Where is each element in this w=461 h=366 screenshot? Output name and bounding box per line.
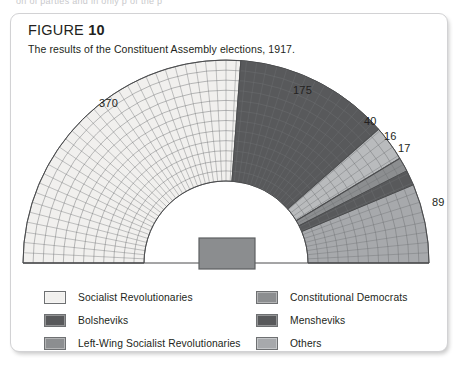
legend-swatch [256,314,278,327]
legend-label: Bolsheviks [78,315,128,326]
legend-swatch [44,337,66,350]
legend-swatch [256,291,278,304]
legend-label: Others [290,338,322,349]
segment-value-label: 370 [99,97,118,109]
segment-value-label: 17 [398,142,411,154]
legend-label: Left-Wing Socialist Revolutionaries [78,338,241,349]
legend-swatch [44,291,66,304]
legend-item: Bolsheviks [44,314,256,327]
legend-item: Left-Wing Socialist Revolutionaries [44,337,256,350]
legend-swatch [44,314,66,327]
legend-item: Others [256,337,434,350]
figure-panel: FIGURE 10 The results of the Constituent… [10,13,448,352]
page-bleed-text: on of parties and in only p of the p [0,0,461,7]
legend-label: Constitutional Democrats [290,292,407,303]
segment-value-label: 175 [293,84,312,96]
legend-label: Mensheviks [290,315,345,326]
legend-swatch [256,337,278,350]
segment-value-label: 16 [384,130,397,142]
speaker-podium [199,238,255,269]
chart-legend: Socialist RevolutionariesConstitutional … [44,286,434,355]
legend-item: Mensheviks [256,314,434,327]
legend-label: Socialist Revolutionaries [78,292,193,303]
hemicycle-svg [11,14,449,294]
segment-value-label: 89 [432,196,445,208]
hemicycle-chart [11,14,449,294]
legend-item: Socialist Revolutionaries [44,291,256,304]
segment-value-label: 40 [364,115,377,127]
legend-item: Constitutional Democrats [256,291,434,304]
